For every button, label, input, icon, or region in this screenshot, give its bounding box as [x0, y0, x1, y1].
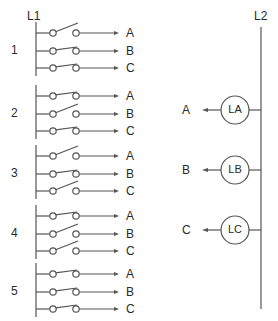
switch-terminal-icon — [50, 188, 56, 194]
output-label: B — [126, 228, 134, 240]
switch-5-a — [36, 270, 119, 277]
lamp-input-label: C — [182, 224, 191, 236]
switch-4-c — [36, 241, 119, 254]
output-label: A — [126, 90, 134, 102]
output-label: B — [126, 45, 134, 57]
switch-4-b — [36, 224, 119, 237]
switch-3-c — [36, 181, 119, 194]
switch-terminal-icon — [73, 248, 79, 254]
switch-terminal-icon — [73, 188, 79, 194]
lamp-label: LA — [221, 104, 249, 115]
switch-1-c — [36, 64, 119, 71]
switch-2-c — [36, 127, 119, 134]
switch-terminal-icon — [50, 213, 56, 219]
switch-3-a — [36, 146, 119, 159]
arrow-right-icon — [114, 129, 119, 133]
bus-label-l1: L1 — [27, 10, 40, 22]
switch-2-a — [36, 92, 119, 99]
switch-3-b — [36, 170, 119, 177]
switch-4-a — [36, 212, 119, 219]
output-label: A — [126, 210, 134, 222]
group-number: 1 — [11, 44, 18, 56]
switch-terminal-icon — [73, 271, 79, 277]
arrow-right-icon — [114, 31, 119, 35]
group-number: 5 — [11, 285, 18, 297]
switch-group-3 — [36, 145, 119, 199]
switch-terminal-icon — [73, 153, 79, 159]
switch-terminal-icon — [73, 30, 79, 36]
output-label: B — [126, 108, 134, 120]
arrow-right-icon — [114, 66, 119, 70]
switch-terminal-icon — [73, 48, 79, 54]
switch-group-2 — [36, 85, 119, 139]
output-label: C — [126, 185, 135, 197]
switch-terminal-icon — [73, 128, 79, 134]
switch-terminal-icon — [50, 153, 56, 159]
switch-terminal-icon — [50, 128, 56, 134]
switch-terminal-icon — [50, 111, 56, 117]
switch-lamp-diagram — [0, 0, 278, 321]
switch-terminal-icon — [50, 30, 56, 36]
switch-group-5 — [36, 263, 119, 317]
output-label: C — [126, 62, 135, 74]
switch-terminal-icon — [50, 231, 56, 237]
arrow-left-icon — [202, 168, 208, 172]
output-label: B — [126, 168, 134, 180]
switch-terminal-icon — [50, 271, 56, 277]
arrow-right-icon — [114, 307, 119, 311]
switch-group-1 — [36, 22, 119, 76]
bus-label-l2: L2 — [254, 10, 267, 22]
output-label: C — [126, 125, 135, 137]
arrow-right-icon — [114, 214, 119, 218]
arrow-right-icon — [114, 290, 119, 294]
group-number: 4 — [11, 227, 18, 239]
switch-terminal-icon — [50, 289, 56, 295]
arrow-right-icon — [114, 189, 119, 193]
output-label: B — [126, 286, 134, 298]
output-label: C — [126, 303, 135, 315]
switch-5-c — [36, 305, 119, 312]
switch-5-b — [36, 288, 119, 295]
switch-terminal-icon — [50, 93, 56, 99]
switch-terminal-icon — [50, 248, 56, 254]
switch-terminal-icon — [73, 306, 79, 312]
switch-group-4 — [36, 205, 119, 259]
arrow-right-icon — [114, 112, 119, 116]
output-label: A — [126, 268, 134, 280]
switch-terminal-icon — [50, 65, 56, 71]
arrow-right-icon — [114, 232, 119, 236]
switch-terminal-icon — [73, 213, 79, 219]
switch-terminal-icon — [73, 231, 79, 237]
group-number: 3 — [11, 167, 18, 179]
output-label: A — [126, 150, 134, 162]
switch-terminal-icon — [50, 48, 56, 54]
group-number: 2 — [11, 107, 18, 119]
switch-1-a — [36, 23, 119, 36]
switch-terminal-icon — [73, 171, 79, 177]
switch-terminal-icon — [73, 111, 79, 117]
arrow-right-icon — [114, 94, 119, 98]
arrow-right-icon — [114, 249, 119, 253]
switch-terminal-icon — [73, 289, 79, 295]
output-label: A — [126, 27, 134, 39]
arrow-left-icon — [202, 228, 208, 232]
arrow-right-icon — [114, 49, 119, 53]
switch-terminal-icon — [50, 306, 56, 312]
switch-terminal-icon — [73, 65, 79, 71]
arrow-right-icon — [114, 172, 119, 176]
arrow-right-icon — [114, 272, 119, 276]
switch-1-b — [36, 47, 119, 54]
lamp-label: LC — [221, 224, 249, 235]
lamp-input-label: B — [182, 164, 190, 176]
lamp-input-label: A — [182, 104, 190, 116]
switch-terminal-icon — [73, 93, 79, 99]
switch-2-b — [36, 104, 119, 117]
output-label: C — [126, 245, 135, 257]
lamp-label: LB — [221, 164, 249, 175]
switch-terminal-icon — [50, 171, 56, 177]
arrow-right-icon — [114, 154, 119, 158]
arrow-left-icon — [202, 108, 208, 112]
